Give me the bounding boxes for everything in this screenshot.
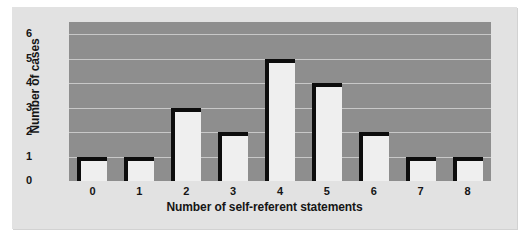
y-tick-label: 4 xyxy=(2,77,32,88)
x-tick-label: 4 xyxy=(257,185,304,201)
x-tick-label: 2 xyxy=(163,185,210,201)
bar-slot xyxy=(69,22,116,181)
x-tick-label: 5 xyxy=(303,185,350,201)
y-tick-label: 3 xyxy=(2,102,32,113)
bar-slot xyxy=(116,22,163,181)
y-tick-label: 1 xyxy=(2,151,32,162)
bar xyxy=(218,132,248,181)
bar xyxy=(124,157,154,181)
plot-area xyxy=(69,22,491,181)
bar-slot xyxy=(303,22,350,181)
x-axis-title: Number of self-referent statements xyxy=(12,200,517,214)
bar xyxy=(171,108,201,181)
x-tick-label: 0 xyxy=(69,185,116,201)
x-tick-label: 6 xyxy=(350,185,397,201)
y-tick-label: 5 xyxy=(2,53,32,64)
chart-figure: Number of cases Number of self-referent … xyxy=(12,7,517,229)
y-tick-label: 6 xyxy=(2,28,32,39)
x-tick-label: 1 xyxy=(116,185,163,201)
bar xyxy=(359,132,389,181)
x-tick-label: 7 xyxy=(397,185,444,201)
x-tick-label: 8 xyxy=(444,185,491,201)
bar xyxy=(453,157,483,181)
bar-slot xyxy=(350,22,397,181)
x-tick-label: 3 xyxy=(210,185,257,201)
bar xyxy=(406,157,436,181)
bar xyxy=(312,83,342,181)
y-tick-label: 2 xyxy=(2,126,32,137)
x-axis-tick-labels: 012345678 xyxy=(69,185,491,201)
bar-slot xyxy=(163,22,210,181)
bar xyxy=(77,157,107,181)
bar-slot xyxy=(397,22,444,181)
bar-series xyxy=(69,22,491,181)
bar-slot xyxy=(257,22,304,181)
bar-slot xyxy=(210,22,257,181)
y-tick-label: 0 xyxy=(2,175,32,186)
bar-slot xyxy=(444,22,491,181)
bar xyxy=(265,59,295,181)
